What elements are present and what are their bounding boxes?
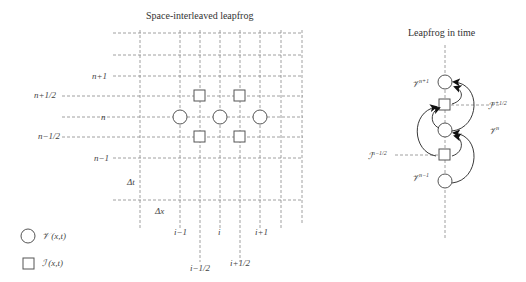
right-panel-title: Leapfrog in time	[408, 27, 475, 38]
label-i-n-plus-half: ℐn+1/2	[488, 100, 507, 111]
label-v-n-plus-1: 𝒱n+1	[412, 78, 429, 90]
diagram-canvas	[0, 0, 526, 282]
v-nodes	[173, 110, 267, 124]
time-axis	[395, 45, 500, 240]
grid-vertical-lines	[140, 30, 302, 262]
legend-i-label: ℐ (x,t)	[42, 258, 63, 268]
label-v-n: 𝒱n	[489, 125, 499, 137]
col-label-i-minus-half: i−1/2	[190, 263, 210, 273]
col-label-i-minus-1: i−1	[174, 227, 187, 237]
legend-shapes	[21, 229, 35, 269]
col-label-i-plus-1: i+1	[255, 227, 268, 237]
col-label-i-plus-half: i+1/2	[230, 258, 250, 268]
delta-x-label: Δx	[155, 206, 164, 216]
label-v-n-minus-1: 𝒱n−1	[412, 172, 429, 184]
label-i-n-minus-half: ℐn−1/2	[368, 150, 387, 161]
delta-t-label: Δt	[127, 177, 135, 187]
row-label-n-minus-half: n−1/2	[38, 131, 60, 141]
row-label-n: n	[101, 112, 106, 122]
row-label-n-plus-half: n+1/2	[34, 90, 56, 100]
row-label-n-minus-1: n−1	[94, 153, 109, 163]
col-label-i: i	[218, 227, 221, 237]
row-label-n-plus-1: n+1	[92, 71, 107, 81]
left-panel-title: Space-interleaved leapfrog	[146, 10, 253, 21]
legend-v-label: 𝒱 (x,t)	[42, 231, 66, 242]
